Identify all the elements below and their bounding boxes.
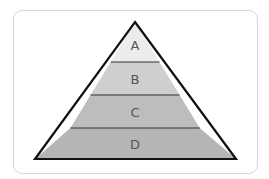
level-label-c: C [130,105,139,120]
level-label-a: A [131,38,140,53]
level-label-d: D [130,137,140,152]
pyramid-diagram: A B C D [0,0,269,179]
level-label-b: B [131,72,140,87]
